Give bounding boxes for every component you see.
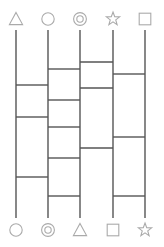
bottom-double-circle-icon-2: [42, 224, 55, 237]
bottom-double-circle-icon-2-inner: [45, 227, 51, 233]
bottom-star-icon-5: [138, 223, 151, 236]
top-icons-group: [9, 12, 150, 25]
amidakuji-diagram: [0, 0, 164, 247]
bottom-icons-group: [10, 223, 152, 236]
top-triangle-icon-1: [9, 12, 22, 24]
vertical-lines-group: [16, 30, 145, 218]
bottom-triangle-icon-3: [73, 223, 86, 235]
top-double-circle-icon-3: [74, 13, 87, 26]
bottom-square-icon-4: [107, 224, 119, 236]
bottom-circle-icon-1: [10, 224, 22, 236]
ladder-svg: [0, 0, 164, 247]
top-double-circle-icon-3-inner: [77, 16, 83, 22]
top-circle-icon-2: [42, 13, 54, 25]
top-star-icon-4: [106, 12, 119, 25]
top-square-icon-5: [139, 13, 151, 25]
